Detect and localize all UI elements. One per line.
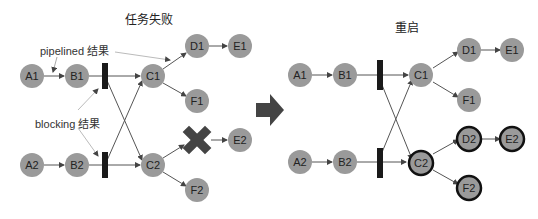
svg-text:E1: E1 (505, 44, 518, 56)
svg-text:D1: D1 (190, 40, 204, 52)
restart-diagram: 任务失败 重启 pipelined 结果 blocking 结果 (0, 0, 538, 219)
svg-text:D2: D2 (462, 133, 476, 145)
svg-text:B1: B1 (338, 69, 351, 81)
svg-text:B1: B1 (70, 70, 83, 82)
right-arrow-icon (256, 94, 284, 126)
svg-text:E2: E2 (233, 134, 246, 146)
svg-text:D1: D1 (462, 44, 476, 56)
svg-text:A2: A2 (293, 156, 306, 168)
barrier-bar (377, 148, 383, 178)
svg-text:C1: C1 (414, 69, 428, 81)
svg-text:C1: C1 (146, 70, 160, 82)
svg-text:A1: A1 (25, 70, 38, 82)
svg-text:C2: C2 (146, 159, 160, 171)
barrier-bar (102, 63, 108, 89)
diagram-canvas: A1 B1 C1 D1 E1 F1 A2 B2 C2 E2 F2 A1 B1 C… (0, 0, 538, 219)
svg-text:F1: F1 (463, 94, 476, 106)
svg-text:A1: A1 (293, 69, 306, 81)
svg-text:E1: E1 (233, 40, 246, 52)
svg-text:A2: A2 (25, 159, 38, 171)
barrier-bar (377, 60, 383, 90)
svg-text:F1: F1 (191, 95, 204, 107)
svg-text:B2: B2 (70, 159, 83, 171)
barrier-bar (102, 152, 108, 178)
svg-text:B2: B2 (338, 156, 351, 168)
svg-text:E2: E2 (505, 133, 518, 145)
svg-text:F2: F2 (463, 182, 476, 194)
x-mark-icon (189, 132, 205, 148)
svg-text:C2: C2 (414, 157, 428, 169)
svg-text:F2: F2 (191, 184, 204, 196)
